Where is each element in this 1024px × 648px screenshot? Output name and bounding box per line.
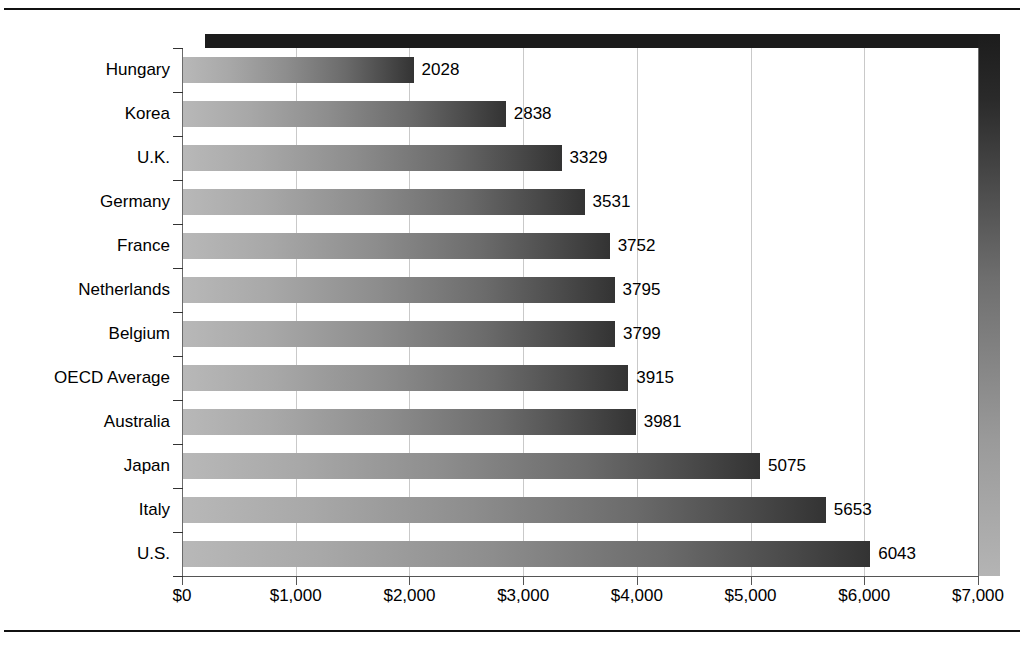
x-axis-baseline [182,576,979,577]
chart-figure: HungaryKoreaU.K.GermanyFranceNetherlands… [0,0,1024,648]
bar[interactable] [183,321,615,347]
bar[interactable] [183,409,636,435]
bar[interactable] [183,57,414,83]
y-axis-tick [173,532,183,533]
bar[interactable] [183,145,562,171]
gridline-7000 [978,48,979,576]
y-axis-tick [173,444,183,445]
top-divider-rule [4,8,1020,10]
plot-area-wrapper: 2028283833293531375237953799391539815075… [182,48,978,576]
bar-value-label: 3915 [636,365,674,391]
bottom-divider-rule [4,630,1020,632]
bar[interactable] [183,453,760,479]
bar-value-label: 3981 [644,409,682,435]
category-label-u-s: U.S. [0,541,170,567]
bar-value-label: 5653 [834,497,872,523]
bar-value-label: 2028 [422,57,460,83]
category-label-korea: Korea [0,101,170,127]
plot-3d-top-shadow [205,34,978,48]
x-axis-tick-labels: $0$1,000$2,000$3,000$4,000$5,000$6,000$7… [182,586,982,610]
x-axis-tick [182,577,183,585]
category-label-germany: Germany [0,189,170,215]
x-axis-tick [409,577,410,585]
x-axis-tick [751,577,752,585]
y-axis-tick [173,400,183,401]
category-label-belgium: Belgium [0,321,170,347]
bar-value-label: 3799 [623,321,661,347]
bar[interactable] [183,277,615,303]
bar[interactable] [183,233,610,259]
y-axis-category-labels: HungaryKoreaU.K.GermanyFranceNetherlands… [0,48,170,576]
bar-value-label: 3795 [623,277,661,303]
x-axis-tick [864,577,865,585]
bar[interactable] [183,101,506,127]
x-axis-label-7000: $7,000 [952,586,1004,606]
y-axis-tick [173,180,183,181]
x-axis-tick [637,577,638,585]
y-axis-tick [173,268,183,269]
y-axis-tick [173,312,183,313]
x-axis-tick [978,577,979,585]
x-axis-tick [296,577,297,585]
bar[interactable] [183,541,870,567]
y-axis-tick [173,48,183,49]
y-axis-tick [173,488,183,489]
bar[interactable] [183,365,628,391]
category-label-oecd-average: OECD Average [0,365,170,391]
category-label-italy: Italy [0,497,170,523]
y-axis-tick [173,356,183,357]
category-label-u-k: U.K. [0,145,170,171]
bar-value-label: 3329 [570,145,608,171]
bar-value-label: 5075 [768,453,806,479]
category-label-netherlands: Netherlands [0,277,170,303]
x-axis-label-1000: $1,000 [270,586,322,606]
y-axis-tick [173,136,183,137]
x-axis-label-6000: $6,000 [838,586,890,606]
bar-value-label: 6043 [878,541,916,567]
x-axis-tick [523,577,524,585]
plot-3d-right-shadow [978,34,1000,576]
bar-value-label: 3531 [593,189,631,215]
bar[interactable] [183,497,826,523]
y-axis-tick [173,92,183,93]
bar-value-label: 2838 [514,101,552,127]
category-label-france: France [0,233,170,259]
y-axis-tick [173,224,183,225]
category-label-australia: Australia [0,409,170,435]
x-axis-label-2000: $2,000 [383,586,435,606]
category-label-japan: Japan [0,453,170,479]
category-label-hungary: Hungary [0,57,170,83]
x-axis-label-0: $0 [173,586,192,606]
x-axis-label-5000: $5,000 [725,586,777,606]
x-axis-label-3000: $3,000 [497,586,549,606]
x-axis-label-4000: $4,000 [611,586,663,606]
bar[interactable] [183,189,585,215]
plot-area: 2028283833293531375237953799391539815075… [182,48,978,576]
bar-value-label: 3752 [618,233,656,259]
